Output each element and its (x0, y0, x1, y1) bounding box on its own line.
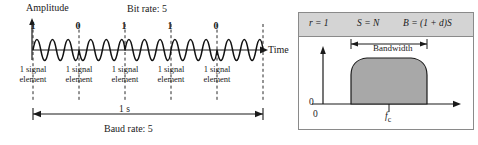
duration-arrow-left (33, 111, 41, 117)
duration-arrow-right (255, 111, 263, 117)
spectrum-lobe (351, 58, 427, 104)
duration-span-arrow (33, 108, 263, 120)
figure-root: Amplitude Bit rate: 5 Time 1 0 1 1 0 1 s… (0, 0, 478, 145)
bandwidth-arrow-left (351, 41, 358, 46)
y-axis (29, 18, 35, 60)
waveform-panel: Amplitude Bit rate: 5 Time 1 0 1 1 0 1 s… (0, 0, 300, 145)
bandwidth-arrow-right (420, 41, 427, 46)
spectrum-y-axis (320, 46, 326, 104)
spectrum-vector (299, 13, 473, 129)
spectrum-panel: r = 1 S = N B = (1 + d)S Bandwidth fc 0 … (298, 12, 474, 130)
bit-boundaries (33, 24, 263, 100)
bandwidth-measure (351, 39, 427, 49)
waveform-vector (0, 0, 300, 145)
